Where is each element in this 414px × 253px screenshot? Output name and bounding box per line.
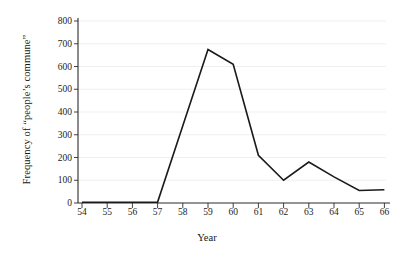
x-axis-title: Year [0,232,414,243]
y-gridlines [78,21,386,180]
line-chart: Frequency of “people’s commune” 800 700 … [0,0,414,253]
data-series-line [82,49,384,202]
y-axis-ticks [74,21,78,203]
x-tick-label: 66 [369,207,399,217]
